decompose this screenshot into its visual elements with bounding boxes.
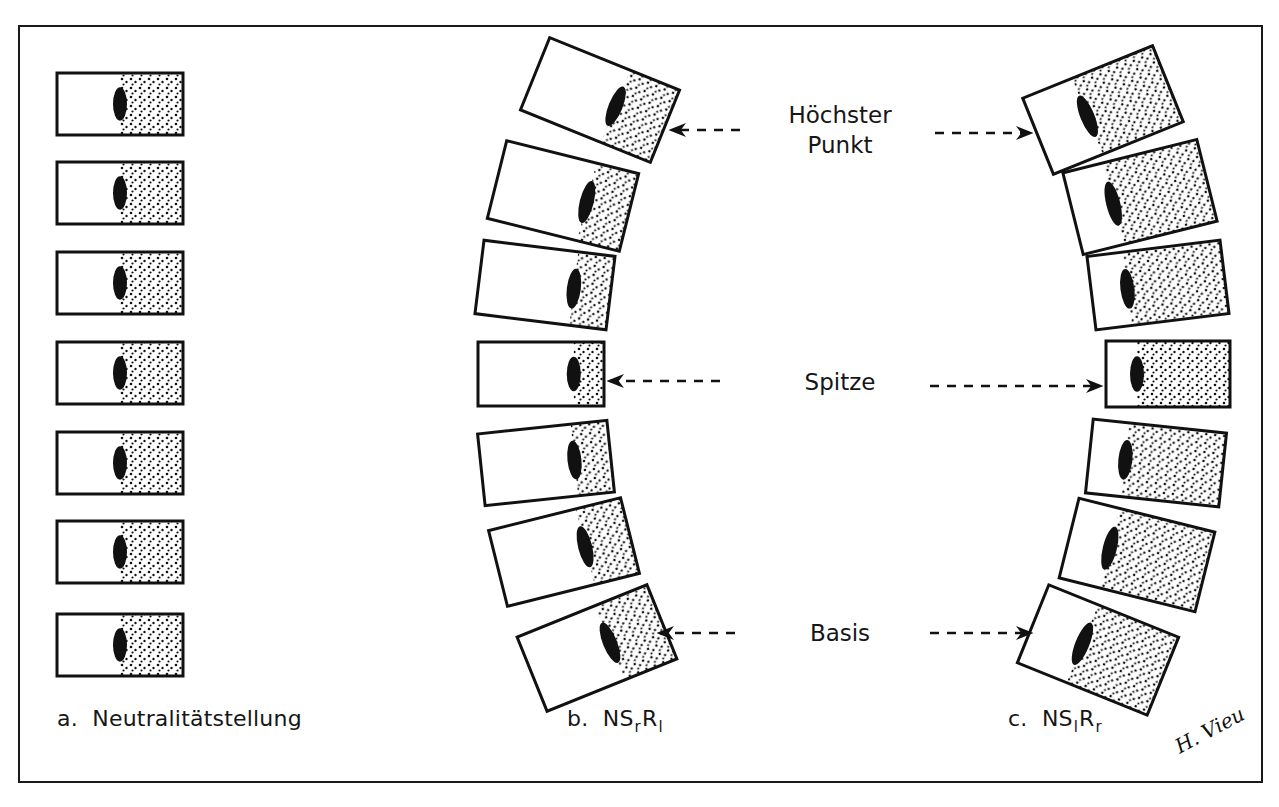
label-apex: Spitze: [770, 367, 910, 397]
stippled-region: [1137, 341, 1230, 407]
vertebra: [57, 252, 183, 314]
label-highest-point: Höchster Punkt: [770, 100, 910, 160]
caption-b: b. NSrRl: [567, 706, 664, 736]
vertebra: [520, 38, 679, 163]
label-highest-point-line2: Punkt: [770, 130, 910, 160]
vertebra: [1017, 585, 1178, 715]
caption-b-s-sub: r: [635, 718, 641, 736]
nucleus-ellipse: [113, 176, 127, 209]
column-nsr-rl: [475, 38, 680, 712]
stippled-region: [120, 521, 183, 583]
caption-c: c. NSlRr: [1008, 706, 1103, 736]
caption-c-r: R: [1079, 706, 1095, 731]
vertebra: [1087, 240, 1229, 330]
vertebra: [1106, 341, 1230, 407]
caption-c-ns: NS: [1042, 706, 1073, 731]
vertebra: [487, 141, 638, 252]
label-base: Basis: [770, 618, 910, 648]
nucleus-ellipse: [113, 356, 127, 389]
spine-diagram: [0, 0, 1279, 807]
caption-b-r: R: [642, 706, 658, 731]
vertebra: [57, 73, 183, 135]
stippled-region: [120, 342, 183, 404]
nucleus-ellipse: [113, 446, 127, 479]
caption-b-prefix: b.: [567, 706, 588, 731]
caption-b-r-sub: l: [658, 718, 662, 736]
stippled-region: [120, 73, 183, 135]
caption-a-prefix: a.: [57, 706, 78, 731]
vertebra: [57, 342, 183, 404]
vertebra: [517, 585, 677, 712]
stippled-region: [1123, 240, 1229, 325]
nucleus-ellipse: [113, 535, 127, 568]
vertebra: [475, 240, 615, 330]
vertebra: [478, 420, 615, 505]
caption-c-s-sub: l: [1074, 718, 1078, 736]
vertebra: [57, 162, 183, 224]
nucleus-ellipse: [113, 628, 127, 661]
vertebra: [57, 614, 183, 676]
stippled-region: [120, 162, 183, 224]
column-neutral: [57, 73, 183, 676]
caption-a: a. Neutralitätstellung: [57, 706, 302, 731]
vertebra: [478, 342, 604, 406]
column-nsl-rr: [1017, 46, 1230, 715]
vertebra: [1085, 419, 1226, 507]
caption-b-ns: NS: [603, 706, 634, 731]
nucleus-ellipse: [113, 266, 127, 299]
caption-a-text: Neutralitätstellung: [92, 706, 302, 731]
label-highest-point-line1: Höchster: [770, 100, 910, 130]
stippled-region: [120, 614, 183, 676]
stippled-region: [120, 432, 183, 494]
vertebra: [57, 432, 183, 494]
nucleus-ellipse: [1130, 356, 1144, 392]
vertebra: [1059, 498, 1215, 611]
vertebra: [57, 521, 183, 583]
caption-c-prefix: c.: [1008, 706, 1028, 731]
vertebra: [489, 498, 640, 607]
nucleus-ellipse: [113, 87, 127, 120]
stippled-region: [1121, 423, 1226, 507]
caption-c-r-sub: r: [1096, 718, 1102, 736]
stippled-region: [120, 252, 183, 314]
nucleus-ellipse: [567, 357, 581, 392]
